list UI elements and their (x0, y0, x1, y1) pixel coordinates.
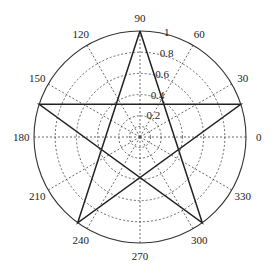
theta-tick-label: 60 (194, 28, 206, 40)
theta-tick-label: 180 (13, 131, 30, 143)
theta-tick-label: 0 (256, 131, 262, 143)
r-tick-label: 1 (164, 26, 170, 38)
polar-chart: 03060901201501802102402703003300.20.40.6… (0, 0, 275, 275)
theta-tick-label: 210 (29, 190, 46, 202)
r-tick-label: 0.2 (146, 109, 160, 121)
theta-gridline (87, 45, 140, 137)
theta-tick-label: 270 (132, 250, 149, 262)
r-tick-label: 0.6 (155, 68, 169, 80)
theta-tick-label: 330 (235, 190, 252, 202)
theta-tick-label: 120 (72, 28, 89, 40)
theta-tick-label: 150 (29, 72, 46, 84)
theta-tick-label: 240 (72, 234, 89, 246)
grid (34, 31, 246, 243)
r-tick-label: 0.8 (160, 47, 174, 59)
theta-gridline (48, 84, 140, 137)
theta-tick-label: 30 (237, 72, 249, 84)
r-tick-label: 0.4 (151, 89, 165, 101)
theta-tick-label: 90 (135, 12, 147, 24)
theta-tick-label: 300 (191, 234, 208, 246)
